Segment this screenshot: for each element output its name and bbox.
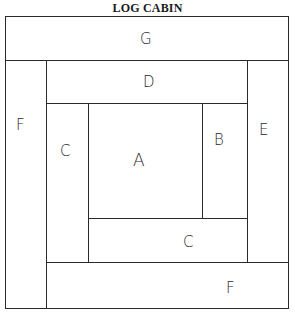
diagram-title: LOG CABIN: [0, 1, 295, 16]
piece-c-left: [46, 103, 89, 263]
label-f-bottom: F: [226, 279, 235, 297]
piece-a: [88, 103, 203, 219]
piece-b: [202, 103, 248, 219]
piece-c-bottom: [88, 218, 248, 263]
piece-f-left: [5, 60, 47, 309]
piece-e: [247, 60, 289, 263]
label-a: A: [133, 150, 145, 170]
label-c-left: C: [60, 142, 70, 160]
label-b: B: [214, 131, 224, 149]
label-g: G: [140, 30, 152, 48]
label-d: D: [143, 73, 155, 91]
label-c-bottom: C: [183, 233, 193, 251]
label-f-left: F: [16, 116, 25, 134]
label-e: E: [259, 121, 268, 139]
piece-f-bottom: [46, 262, 289, 309]
